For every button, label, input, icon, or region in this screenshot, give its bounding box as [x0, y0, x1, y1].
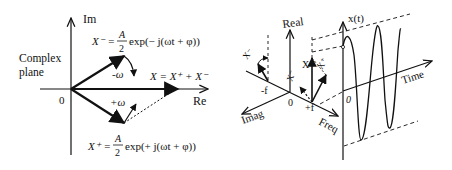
neg-f-rotation-arrow: [258, 58, 268, 64]
pos-f-label: +f: [305, 102, 315, 113]
x-plus-frac-num: A: [114, 133, 122, 144]
x-minus-frac-num: A: [118, 29, 126, 40]
title-line1: Complex: [19, 52, 61, 65]
x-minus-rhs: exp(− j(ωt + φ)): [129, 35, 200, 48]
initial-value-point: [341, 45, 344, 48]
complex-plane-diagram: Im Re 0 Complex plane -ω +ω X = X⁺ + X⁻ …: [19, 12, 209, 158]
time-origin-label: 0: [346, 94, 351, 105]
neg-f-label: -f: [261, 85, 268, 96]
neg-f-vector: [258, 64, 268, 81]
projection-mid: [320, 91, 344, 104]
im-axis-label: Im: [83, 12, 97, 26]
pos-omega-label: +ω: [110, 96, 125, 108]
spectrum-3d-diagram: Real Imag Freq Time x(t) 0 0 -f +f X X⁻ …: [240, 12, 432, 160]
real-axis-label: Real: [282, 15, 305, 30]
neg-omega-label: -ω: [112, 68, 124, 80]
x-minus-lhs: X⁻ =: [91, 35, 115, 47]
x-label: X: [302, 59, 310, 70]
projection-x: [312, 46, 343, 52]
time-signal-waveform: [343, 26, 401, 140]
x-minus-frac-den: 2: [119, 43, 124, 54]
sum-dashed-line: [124, 89, 176, 123]
x-plus-frac-den: 2: [115, 147, 120, 158]
x-plus-lhs: X⁺ =: [87, 140, 111, 152]
neg-omega-rotation-arrow: [124, 56, 134, 76]
re-axis-label: Re: [193, 94, 206, 108]
xt-axis-label: x(t): [348, 12, 364, 25]
x-minus-label: X⁻: [284, 68, 297, 82]
spectrum-diagram-canvas: Im Re 0 Complex plane -ω +ω X = X⁺ + X⁻ …: [0, 0, 452, 170]
origin-label: 0: [288, 97, 293, 108]
x-minus-left-label: X⁻: [240, 46, 255, 61]
imag-axis-label: Imag: [240, 107, 266, 126]
projection-bottom: [344, 121, 418, 146]
freq-axis-label: Freq: [317, 115, 341, 135]
pos-omega-rotation-arrow: [124, 104, 136, 123]
title-line2: plane: [19, 66, 44, 79]
sum-equation: X = X⁺ + X⁻: [149, 70, 209, 82]
x-plus-label: X⁺: [315, 56, 329, 71]
origin-label: 0: [59, 94, 65, 106]
x-plus-rhs: exp(+ j(ωt + φ)): [125, 140, 196, 153]
